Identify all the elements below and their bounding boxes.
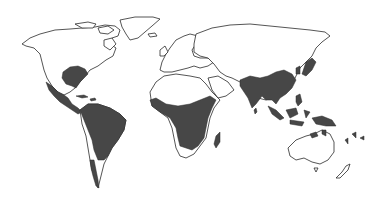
iceland — [148, 33, 157, 37]
pacific-islands-region — [345, 132, 364, 144]
new-guinea-region — [312, 116, 336, 126]
world-map — [0, 0, 378, 200]
madagascar-region — [214, 132, 220, 148]
philippines-region — [296, 94, 302, 106]
indonesia-region — [268, 106, 310, 126]
tasmania — [314, 168, 318, 172]
caribbean-region — [76, 95, 96, 101]
sri-lanka-region — [254, 108, 257, 114]
new-zealand — [336, 164, 350, 178]
